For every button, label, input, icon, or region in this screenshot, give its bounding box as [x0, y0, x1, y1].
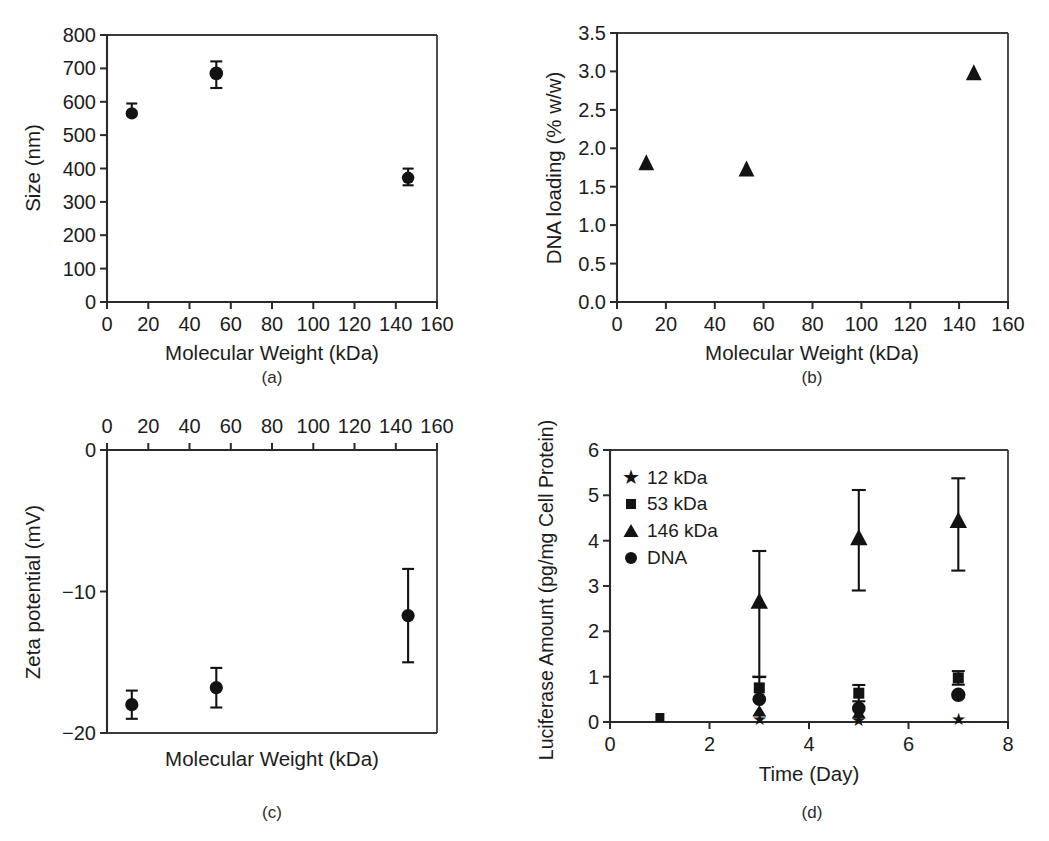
xtick-80: 80 — [261, 415, 283, 437]
ytick-200: 200 — [63, 224, 96, 246]
data-point: ★ — [752, 710, 767, 729]
panel-b-axes — [617, 33, 1008, 302]
xtick-100: 100 — [845, 313, 878, 335]
legend-label-12kda: 12 kDa — [647, 467, 708, 488]
panel-d-day3: ★ — [751, 551, 768, 729]
panel-d-day1 — [655, 713, 664, 722]
data-point — [655, 713, 664, 722]
panel-b-data — [638, 64, 981, 176]
data-point — [850, 490, 867, 591]
panel-a-axes — [107, 35, 437, 302]
xtick-40: 40 — [178, 415, 200, 437]
data-point — [402, 169, 414, 186]
ytick-0-5: 0.5 — [578, 253, 606, 275]
panel-d-axes — [610, 450, 1008, 722]
data-point — [966, 64, 982, 80]
circle-icon — [625, 552, 637, 564]
xtick-20: 20 — [655, 313, 677, 335]
star-icon: ★ — [622, 466, 640, 488]
xtick-6: 6 — [903, 733, 914, 755]
xtick-120: 120 — [338, 313, 371, 335]
panel-a-data — [126, 61, 415, 185]
xtick-140: 140 — [379, 415, 412, 437]
panel-a-plot: 0 100 200 300 400 500 600 700 800 — [0, 0, 525, 400]
triangle-icon — [624, 524, 639, 537]
data-point — [739, 161, 755, 177]
ytick-1-0: 1.0 — [578, 214, 606, 236]
ytick-800: 800 — [63, 24, 96, 46]
xtick-100: 100 — [297, 313, 330, 335]
panel-b-plot: 0.0 0.5 1.0 1.5 2.0 2.5 3.0 3.5 — [525, 0, 1049, 400]
legend-label-53kda: 53 kDa — [647, 493, 708, 514]
panel-c-xlabel: Molecular Weight (kDa) — [165, 747, 379, 770]
data-point — [751, 551, 768, 677]
panel-a-ylabel: Size (nm) — [21, 124, 44, 212]
xtick-100: 100 — [297, 415, 330, 437]
data-point: ★ — [851, 711, 866, 730]
ytick-0: 0 — [85, 291, 96, 313]
panel-c-ylabel: Zeta potential (mV) — [21, 505, 44, 679]
xtick-20: 20 — [137, 415, 159, 437]
xtick-0: 0 — [611, 313, 622, 335]
panel-d-xlabel: Time (Day) — [759, 762, 860, 785]
xtick-120: 120 — [894, 313, 927, 335]
data-point — [638, 154, 654, 170]
panel-b-y-ticklabels: 0.0 0.5 1.0 1.5 2.0 2.5 3.0 3.5 — [578, 22, 606, 313]
xtick-0: 0 — [101, 313, 112, 335]
data-point: ★ — [951, 710, 966, 729]
panel-d-caption: (d) — [782, 803, 842, 823]
panel-c-x-ticklabels: 0 20 40 60 80 100 120 140 160 — [101, 415, 453, 437]
panel-c: 0 20 40 60 80 100 120 140 160 0 −10 −20 — [0, 400, 525, 841]
ytick-500: 500 — [63, 124, 96, 146]
xtick-140: 140 — [379, 313, 412, 335]
xtick-60: 60 — [220, 313, 242, 335]
ytick-700: 700 — [63, 57, 96, 79]
data-point — [210, 61, 224, 88]
panel-c-y-ticklabels: 0 −10 −20 — [62, 439, 96, 744]
ytick-neg10: −10 — [62, 581, 96, 603]
panel-a: 0 100 200 300 400 500 600 700 800 — [0, 0, 525, 400]
panel-d-x-ticklabels: 0 2 4 6 8 — [604, 733, 1013, 755]
panel-c-plot: 0 20 40 60 80 100 120 140 160 0 −10 −20 — [0, 400, 525, 841]
panel-c-axes — [107, 450, 437, 733]
xtick-0: 0 — [101, 415, 112, 437]
xtick-20: 20 — [137, 313, 159, 335]
panel-d-y-ticklabels: 0 1 2 3 4 5 6 — [588, 439, 599, 733]
panel-d-plot: 0 1 2 3 4 5 6 0 2 4 6 8 — [525, 400, 1049, 841]
panel-c-data — [125, 569, 415, 719]
panel-c-caption: (c) — [242, 803, 302, 823]
legend-label-dna: DNA — [647, 547, 687, 568]
data-point — [951, 688, 965, 702]
data-point — [210, 668, 223, 708]
ytick-400: 400 — [63, 158, 96, 180]
ytick-100: 100 — [63, 258, 96, 280]
ytick-4: 4 — [588, 530, 599, 552]
ytick-neg20: −20 — [62, 722, 96, 744]
panel-d: 0 1 2 3 4 5 6 0 2 4 6 8 — [525, 400, 1049, 841]
panel-d-day7: ★ — [950, 478, 967, 729]
ytick-0: 0 — [588, 711, 599, 733]
data-point — [852, 685, 865, 701]
data-point — [753, 693, 767, 707]
panel-d-legend: ★ 12 kDa 53 kDa 146 kDa DNA — [622, 466, 718, 568]
panel-a-caption: (a) — [242, 368, 302, 388]
ytick-1-5: 1.5 — [578, 176, 606, 198]
xtick-4: 4 — [803, 733, 814, 755]
ytick-2-5: 2.5 — [578, 99, 606, 121]
xtick-40: 40 — [704, 313, 726, 335]
ytick-1: 1 — [588, 666, 599, 688]
panel-a-xlabel: Molecular Weight (kDa) — [165, 341, 379, 364]
xtick-8: 8 — [1002, 733, 1013, 755]
panel-d-day5: ★ — [850, 490, 867, 730]
xtick-2: 2 — [704, 733, 715, 755]
panel-d-ylabel: Luciferase Amount (pg/mg Cell Protein) — [535, 420, 557, 760]
xtick-140: 140 — [942, 313, 975, 335]
panel-b-ylabel: DNA loading (% w/w) — [542, 72, 565, 265]
panel-b-x-ticklabels: 0 20 40 60 80 100 120 140 160 — [611, 313, 1024, 335]
data-point — [402, 569, 415, 662]
xtick-160: 160 — [991, 313, 1024, 335]
data-point — [952, 671, 965, 685]
xtick-120: 120 — [338, 415, 371, 437]
ytick-5: 5 — [588, 484, 599, 506]
ytick-2: 2 — [588, 620, 599, 642]
